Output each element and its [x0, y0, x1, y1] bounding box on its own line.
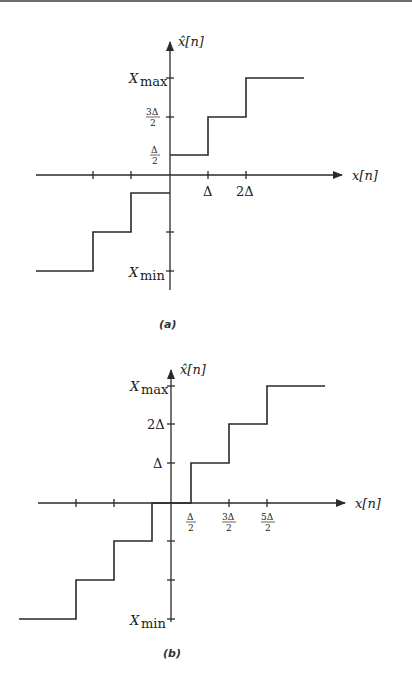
caption-b: (b): [163, 647, 181, 660]
svg-text:X: X: [129, 379, 140, 394]
x-label-3delta-over-2-b: 3Δ 2: [222, 512, 236, 533]
svg-text:2: 2: [152, 156, 158, 166]
y-axis-label-a: x̂[n]: [178, 34, 205, 49]
svg-text:Δ: Δ: [151, 145, 158, 155]
svg-text:min: min: [140, 268, 165, 283]
svg-text:min: min: [141, 616, 166, 631]
figure-b: x̂[n] x[n] X max 2Δ Δ X min Δ 2 3Δ 2 5Δ …: [19, 362, 382, 660]
y-label-delta-b: Δ: [153, 456, 162, 471]
x-label-delta-a: Δ: [203, 184, 212, 199]
quantizer-staircase-a-positive: [170, 78, 304, 155]
x-axis-label-b: x[n]: [355, 496, 382, 511]
svg-text:max: max: [140, 74, 168, 89]
svg-text:3Δ: 3Δ: [222, 512, 235, 522]
quantizer-staircase-a: [36, 193, 170, 271]
svg-text:5Δ: 5Δ: [261, 512, 274, 522]
x-label-delta-over-2-b: Δ 2: [186, 512, 196, 533]
x-axis-label-a: x[n]: [352, 168, 379, 183]
y-label-2delta-b: 2Δ: [147, 417, 165, 432]
x-label-2delta-a: 2Δ: [236, 184, 254, 199]
y-label-xmin-a: X min: [128, 265, 165, 283]
svg-text:max: max: [141, 382, 169, 397]
svg-text:X: X: [128, 265, 139, 280]
y-label-xmax-b: X max: [129, 379, 169, 397]
y-label-xmin-b: X min: [129, 613, 166, 631]
svg-text:3Δ: 3Δ: [146, 107, 159, 117]
caption-a: (a): [159, 318, 176, 331]
svg-text:X: X: [128, 71, 139, 86]
y-label-xmax-a: X max: [128, 71, 168, 89]
y-axis-label-b: x̂[n]: [180, 362, 207, 377]
quantizer-figures: x̂[n] x[n] X max 3Δ 2 Δ 2 X min Δ 2Δ (a): [0, 0, 412, 680]
svg-text:2: 2: [226, 523, 232, 533]
svg-text:Δ: Δ: [187, 512, 194, 522]
svg-text:2: 2: [150, 118, 156, 128]
svg-text:2: 2: [188, 523, 194, 533]
x-label-5delta-over-2-b: 5Δ 2: [261, 512, 275, 533]
svg-text:X: X: [129, 613, 140, 628]
figure-a: x̂[n] x[n] X max 3Δ 2 Δ 2 X min Δ 2Δ (a): [36, 34, 379, 331]
svg-text:2: 2: [265, 523, 271, 533]
y-label-delta-over-2-a: Δ 2: [150, 145, 160, 166]
y-label-3delta-over-2-a: 3Δ 2: [146, 107, 160, 128]
